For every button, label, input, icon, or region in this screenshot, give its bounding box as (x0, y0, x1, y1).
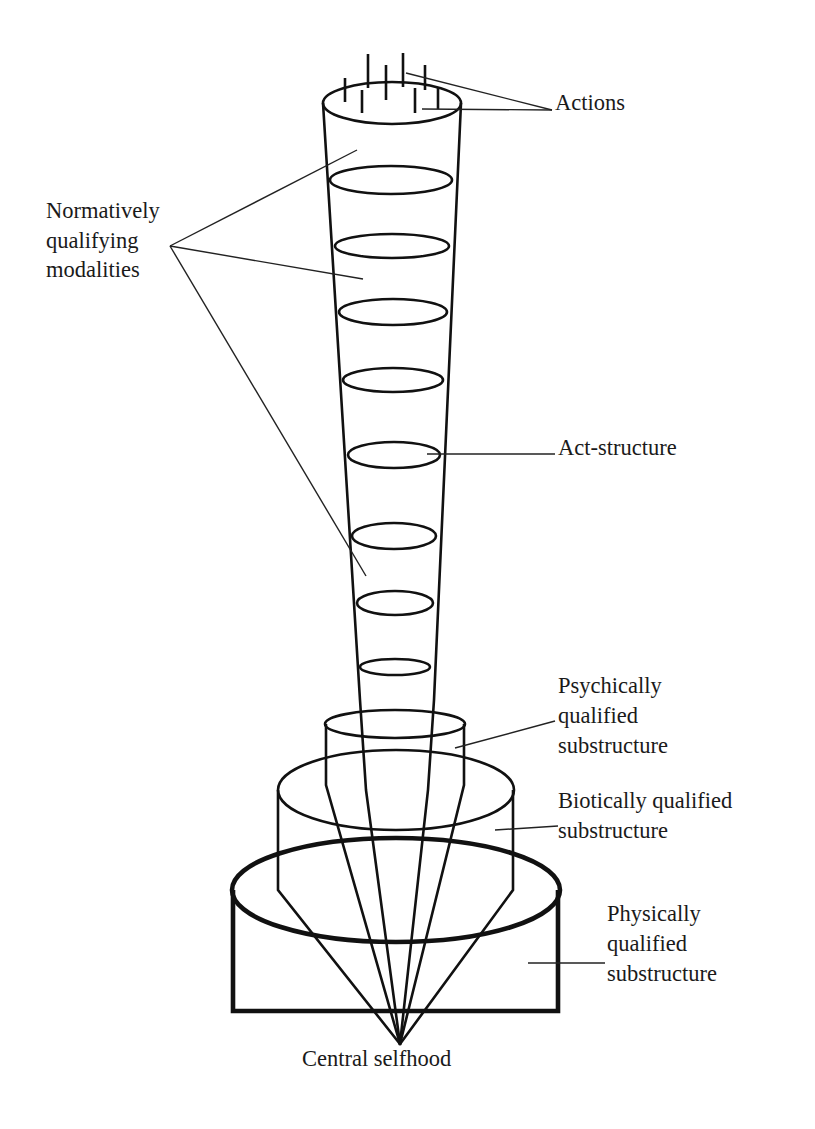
modality-ring (348, 442, 440, 468)
label-act-structure: Act-structure (558, 435, 677, 460)
act-structure-tube (323, 82, 461, 1044)
label-physical-line3: substructure (607, 961, 717, 986)
act-structure-diagram: Actions Normatively qualifying modalitie… (0, 0, 815, 1129)
modality-ring (357, 591, 433, 615)
label-psychic-line3: substructure (558, 733, 668, 758)
physical-cylinder (232, 838, 560, 1011)
modality-ring (339, 299, 447, 325)
modality-ring (335, 234, 449, 258)
modality-rings (330, 166, 452, 675)
label-physical-line2: qualified (607, 931, 687, 956)
label-biotic-line1: Biotically qualified (558, 788, 732, 813)
label-actions: Actions (555, 90, 625, 115)
label-psychic-line1: Psychically (558, 673, 662, 698)
label-psychic-line2: qualified (558, 703, 638, 728)
label-biotic-line2: substructure (558, 818, 668, 843)
modality-ring (343, 368, 443, 392)
label-normative-line2: qualifying (46, 228, 138, 253)
psychic-cylinder (325, 710, 465, 1044)
label-physical-line1: Physically (607, 901, 701, 926)
modality-ring (330, 166, 452, 194)
modality-ring (360, 659, 430, 675)
biotic-cylinder (278, 750, 514, 1044)
tube-right-side (400, 103, 461, 1044)
modality-ring (352, 523, 436, 549)
label-normative-line1: Normatively (46, 198, 160, 223)
label-central-selfhood: Central selfhood (302, 1046, 451, 1071)
label-normative-line3: modalities (46, 257, 140, 282)
